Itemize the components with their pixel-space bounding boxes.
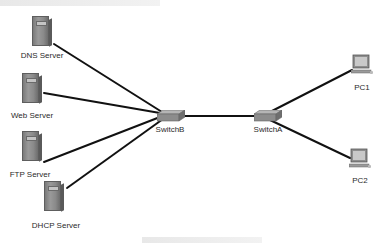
network-diagram: DNS Server Web Server FTP Server DHCP Se… <box>0 0 392 243</box>
dhcp-server-label: DHCP Server <box>32 221 80 230</box>
link-switchA-pc1 <box>270 70 352 112</box>
ftp-server-label: FTP Server <box>10 170 51 179</box>
link-ftp-switchB <box>44 117 160 162</box>
link-dns-switchB <box>54 44 162 112</box>
web-server-icon <box>22 73 39 103</box>
web-server-label: Web Server <box>11 111 53 120</box>
pc2-icon <box>349 148 371 174</box>
switchA-label: SwitchA <box>254 125 283 134</box>
switchB-label: SwitchB <box>156 125 185 134</box>
pc2-label: PC2 <box>352 176 368 185</box>
pc1-icon <box>351 54 373 80</box>
faded-caption <box>142 237 262 243</box>
switchA-icon <box>254 110 282 122</box>
dns-server-icon <box>32 16 49 46</box>
pc1-label: PC1 <box>354 83 370 92</box>
link-web-switchB <box>44 93 160 113</box>
switchB-icon <box>157 110 185 122</box>
dns-server-label: DNS Server <box>21 51 64 60</box>
link-dhcp-switchB <box>67 119 163 188</box>
dhcp-server-icon <box>44 181 61 211</box>
ftp-server-icon <box>22 131 39 161</box>
